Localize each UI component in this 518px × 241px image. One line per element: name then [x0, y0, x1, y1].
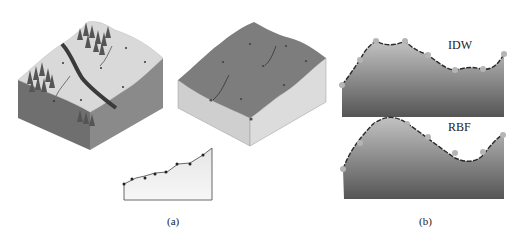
caption-a: (a) — [167, 215, 179, 227]
caption-b: (b) — [419, 215, 432, 227]
rbf-label: RBF — [448, 120, 471, 135]
idw-label: IDW — [448, 38, 472, 53]
terrain-block-interpolated — [178, 22, 326, 146]
figure-canvas — [0, 0, 518, 241]
terrain-block-trees — [18, 22, 163, 150]
rbf-profile — [340, 117, 506, 199]
idw-profile — [339, 38, 507, 117]
sampled-profile-chart — [123, 148, 213, 200]
